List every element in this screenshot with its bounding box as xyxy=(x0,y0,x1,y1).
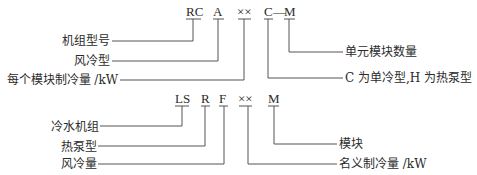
diagram2-codes: LS R F ×× M xyxy=(175,91,280,106)
label-module: 模块 xyxy=(339,137,363,151)
diagram1-leaders xyxy=(112,19,343,80)
label-nominal-cooling: 名义制冷量 /kW xyxy=(339,156,427,171)
diagram2-leaders xyxy=(98,106,337,164)
label-air-cooled: 风冷量 xyxy=(61,157,97,171)
code-c: C xyxy=(264,4,273,19)
label-c-h-type: C 为单冷型,H 为热泵型 xyxy=(345,71,472,85)
code-ls: LS xyxy=(175,91,190,106)
label-heat-pump-type: 热泵型 xyxy=(61,140,97,154)
code-f: F xyxy=(219,91,226,106)
code-xx: ×× xyxy=(237,4,252,19)
code-rc: RC xyxy=(186,4,203,19)
code-m: M xyxy=(284,4,296,19)
diagram1-labels: 机组型号 风冷型 每个模块制冷量 /kW 单元模块数量 C 为单冷型,H 为热泵… xyxy=(7,34,473,87)
label-module-count: 单元模块数量 xyxy=(345,44,417,59)
diagram1-codes: RC A ×× C — M xyxy=(186,4,296,19)
model-code-diagram: RC A ×× C — M 机组型号 风冷型 每个模块制冷量 /kW 单元模块数… xyxy=(0,0,477,175)
label-cooling-per-module: 每个模块制冷量 /kW xyxy=(7,72,119,87)
code-xx-2: ×× xyxy=(238,91,253,106)
code-a: A xyxy=(213,4,223,19)
diagram-svg: RC A ×× C — M 机组型号 风冷型 每个模块制冷量 /kW 单元模块数… xyxy=(0,0,477,175)
label-chiller-unit: 冷水机组 xyxy=(51,120,99,134)
label-unit-model: 机组型号 xyxy=(62,34,110,48)
code-m-2: M xyxy=(268,91,280,106)
label-air-cooled-type: 风冷型 xyxy=(74,54,110,68)
code-r: R xyxy=(201,91,210,106)
